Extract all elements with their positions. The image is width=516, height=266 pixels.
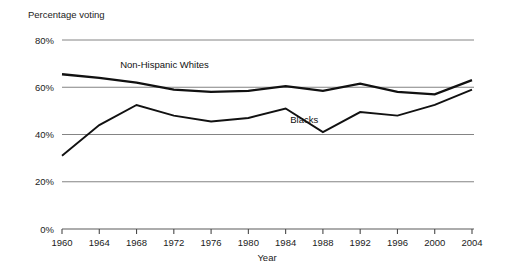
x-tick-label-1992: 1992 bbox=[350, 237, 371, 248]
y-tick-label-60: 60% bbox=[35, 82, 55, 93]
x-tick-label-1976: 1976 bbox=[201, 237, 222, 248]
series-lines-group bbox=[62, 74, 472, 155]
x-axis-title: Year bbox=[257, 252, 276, 263]
series-line-non-hispanic-whites bbox=[62, 74, 472, 94]
series-inline-label-blacks: Blacks bbox=[290, 114, 318, 125]
x-tick-label-1980: 1980 bbox=[238, 237, 259, 248]
x-tick-label-2004: 2004 bbox=[461, 237, 482, 248]
x-tick-label-1996: 1996 bbox=[387, 237, 408, 248]
voting-turnout-line-chart: 0%20%40%60%80% 1960196419681972197619801… bbox=[0, 0, 516, 266]
x-tick-label-1972: 1972 bbox=[163, 237, 184, 248]
x-tick-label-1968: 1968 bbox=[126, 237, 147, 248]
series-line-blacks bbox=[62, 90, 472, 156]
x-tick-label-1984: 1984 bbox=[275, 237, 296, 248]
x-tick-label-2000: 2000 bbox=[424, 237, 445, 248]
y-tick-label-0: 0% bbox=[40, 224, 54, 235]
x-tick-label-1960: 1960 bbox=[51, 237, 72, 248]
series-inline-labels: Non-Hispanic WhitesBlacksPercentage voti… bbox=[28, 9, 319, 263]
x-axis-tick-labels: 1960196419681972197619801984198819921996… bbox=[51, 237, 482, 248]
y-axis-tick-labels: 0%20%40%60%80% bbox=[35, 35, 55, 235]
x-tick-label-1988: 1988 bbox=[312, 237, 333, 248]
y-axis-title: Percentage voting bbox=[28, 9, 105, 20]
series-inline-label-non-hispanic-whites: Non-Hispanic Whites bbox=[120, 59, 209, 70]
x-tick-label-1964: 1964 bbox=[89, 237, 110, 248]
y-tick-label-80: 80% bbox=[35, 35, 55, 46]
x-axis-tickmarks bbox=[62, 229, 472, 234]
chart-canvas: 0%20%40%60%80% 1960196419681972197619801… bbox=[0, 0, 516, 266]
y-tick-label-20: 20% bbox=[35, 176, 55, 187]
y-tick-label-40: 40% bbox=[35, 129, 55, 140]
